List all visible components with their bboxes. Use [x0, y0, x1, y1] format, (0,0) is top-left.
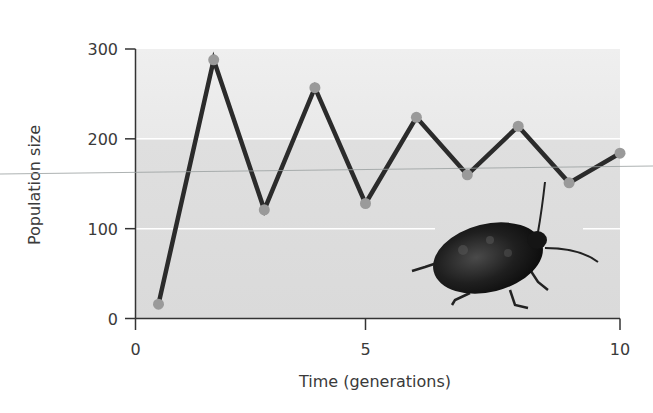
data-point — [462, 169, 473, 180]
chart-svg: 0100200300 0510 Time (generations) Popul… — [0, 0, 653, 413]
data-point — [309, 82, 320, 93]
data-point — [513, 121, 524, 132]
x-tick-label: 10 — [610, 340, 630, 359]
data-point — [208, 54, 219, 65]
y-tick-label: 200 — [87, 130, 118, 149]
y-tick-label: 300 — [87, 40, 118, 59]
data-point — [360, 198, 371, 209]
data-point — [153, 299, 164, 310]
data-point — [259, 204, 270, 215]
x-axis-label: Time (generations) — [298, 372, 451, 391]
y-ticks: 0100200300 — [87, 40, 135, 329]
data-point — [615, 148, 626, 159]
x-tick-label: 5 — [360, 340, 370, 359]
y-tick-label: 0 — [108, 310, 118, 329]
x-ticks: 0510 — [130, 319, 630, 360]
data-point — [564, 177, 575, 188]
y-tick-label: 100 — [87, 220, 118, 239]
population-chart: 0100200300 0510 Time (generations) Popul… — [0, 0, 653, 413]
x-tick-label: 0 — [130, 340, 140, 359]
y-axis-label: Population size — [25, 125, 44, 245]
data-point — [411, 112, 422, 123]
